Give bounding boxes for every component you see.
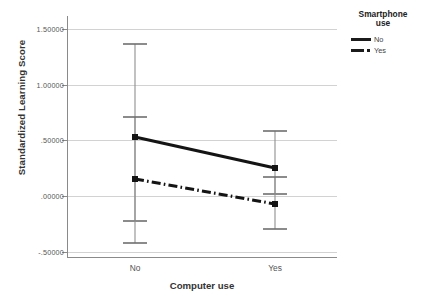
legend-items: No Yes: [345, 35, 427, 56]
legend-item-yes[interactable]: Yes: [351, 46, 427, 56]
legend-swatch-dashdot-icon: [351, 46, 371, 55]
legend-label-yes: Yes: [374, 46, 386, 55]
legend-title: Smartphone use: [345, 10, 421, 29]
legend-label-no: No: [374, 35, 383, 44]
series-line-yes: [132, 176, 278, 207]
series-line-no: [132, 134, 278, 171]
legend-swatch-solid-icon: [351, 35, 371, 44]
legend: Smartphone use No Yes: [345, 10, 427, 57]
legend-title-line2: use: [345, 19, 421, 28]
legend-item-no[interactable]: No: [351, 35, 427, 45]
chart-container: 1.50000 1.00000 .50000 .00000 -.50000 St…: [0, 0, 428, 296]
